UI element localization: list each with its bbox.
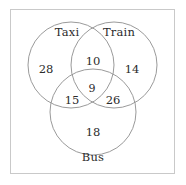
region-value-all-three: 9 bbox=[89, 83, 96, 94]
region-value-taxi-bus: 15 bbox=[65, 95, 80, 107]
set-label-train: Train bbox=[103, 27, 135, 39]
region-value-taxi-train: 10 bbox=[86, 56, 101, 68]
set-label-bus: Bus bbox=[82, 152, 104, 164]
region-value-taxi-only: 28 bbox=[39, 64, 54, 76]
set-label-taxi: Taxi bbox=[55, 27, 80, 39]
venn-diagram-canvas: Taxi Train Bus 28 14 18 10 15 26 9 bbox=[0, 0, 186, 185]
region-value-train-bus: 26 bbox=[106, 95, 121, 107]
region-value-bus-only: 18 bbox=[86, 127, 101, 139]
region-value-train-only: 14 bbox=[125, 64, 140, 76]
